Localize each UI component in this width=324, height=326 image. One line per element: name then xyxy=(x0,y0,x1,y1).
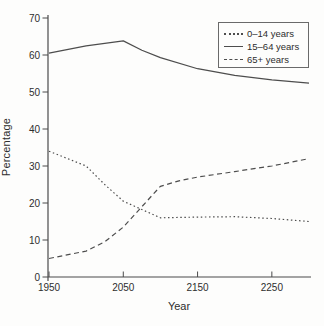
legend-item-15-64: 15–64 years xyxy=(224,40,308,53)
legend-item-65plus: 65+ years xyxy=(224,53,308,66)
y-tick-label: 70 xyxy=(29,13,41,24)
y-tick-label: 30 xyxy=(29,161,41,172)
population-age-structure-chart: 0102030405060701950205021502250 Percenta… xyxy=(0,0,324,326)
dashed-line-sample-icon xyxy=(224,59,243,60)
y-tick-label: 20 xyxy=(29,198,41,209)
y-tick-label: 60 xyxy=(29,50,41,61)
dotted-line-sample-icon xyxy=(224,33,243,35)
x-tick-label: 2250 xyxy=(261,282,284,293)
y-tick-label: 10 xyxy=(29,235,41,246)
solid-line-sample-icon xyxy=(224,46,243,47)
legend-item-0-14: 0–14 years xyxy=(224,27,308,40)
legend-label: 65+ years xyxy=(247,54,289,65)
y-tick-label: 0 xyxy=(34,272,40,283)
series-line-2 xyxy=(49,159,309,259)
legend: 0–14 years 15–64 years 65+ years xyxy=(218,22,309,68)
y-tick-label: 40 xyxy=(29,124,41,135)
legend-label: 15–64 years xyxy=(247,41,299,52)
x-tick-label: 2050 xyxy=(112,282,135,293)
y-tick-label: 50 xyxy=(29,87,41,98)
legend-label: 0–14 years xyxy=(247,28,294,39)
x-tick-label: 1950 xyxy=(38,282,61,293)
series-line-0 xyxy=(49,151,309,221)
y-axis-title: Percentage xyxy=(0,109,12,185)
x-axis-title: Year xyxy=(48,300,310,312)
x-tick-label: 2150 xyxy=(186,282,209,293)
